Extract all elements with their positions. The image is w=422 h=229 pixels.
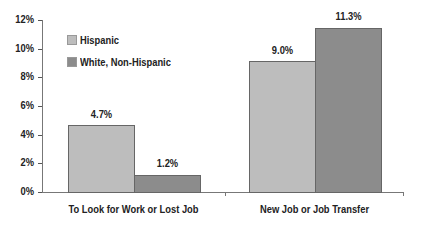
y-tick-label: 8% bbox=[7, 70, 34, 82]
value-label: 9.0% bbox=[254, 44, 311, 56]
legend: Hispanic White, Non-Hispanic bbox=[67, 34, 187, 68]
y-tick bbox=[38, 77, 42, 78]
value-label: 4.7% bbox=[73, 108, 130, 120]
y-tick bbox=[38, 106, 42, 107]
legend-item-white: White, Non-Hispanic bbox=[67, 56, 187, 68]
value-label: 11.3% bbox=[320, 10, 377, 22]
y-tick-label: 2% bbox=[7, 156, 34, 168]
legend-swatch-white bbox=[67, 57, 77, 67]
value-label: 1.2% bbox=[139, 157, 196, 169]
y-tick bbox=[38, 49, 42, 50]
legend-item-hispanic: Hispanic bbox=[67, 34, 187, 46]
y-tick bbox=[38, 20, 42, 21]
y-tick bbox=[38, 135, 42, 136]
bar-hispanic-new-job bbox=[249, 61, 316, 193]
y-tick-label: 6% bbox=[7, 99, 34, 111]
legend-label: Hispanic bbox=[80, 34, 119, 46]
y-tick-label: 10% bbox=[7, 42, 34, 54]
y-tick-label: 4% bbox=[7, 128, 34, 140]
bar-hispanic-look-for-work bbox=[68, 125, 135, 193]
y-tick bbox=[38, 163, 42, 164]
legend-label: White, Non-Hispanic bbox=[80, 56, 171, 68]
x-tick bbox=[403, 192, 404, 196]
chart: 0%2%4%6%8%10%12% Hispanic White, Non-His… bbox=[0, 0, 422, 229]
bar-white-look-for-work bbox=[134, 175, 201, 193]
y-tick-label: 12% bbox=[7, 13, 34, 25]
category-label: New Job or Job Transfer bbox=[238, 203, 390, 215]
bar-white-new-job bbox=[315, 28, 382, 193]
legend-swatch-hispanic bbox=[67, 35, 77, 45]
category-label: To Look for Work or Lost Job bbox=[56, 203, 212, 215]
y-axis bbox=[42, 20, 43, 193]
y-tick-label: 0% bbox=[7, 185, 34, 197]
x-tick bbox=[225, 192, 226, 196]
